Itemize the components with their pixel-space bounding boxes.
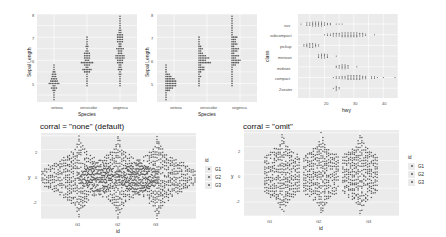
x-tick: G2 [115, 222, 120, 227]
point-icon [205, 182, 212, 189]
y-tick: -2 [236, 199, 240, 204]
x-tick: versicolor [80, 105, 97, 110]
plot-panel [244, 130, 399, 216]
y-tick: 8 [32, 13, 34, 18]
dots-layer [37, 14, 137, 102]
y-axis-title: Sepal Length [144, 48, 150, 77]
y-tick: 7 [32, 36, 34, 41]
dots-layer [41, 133, 196, 219]
legend: id G1 G2 G3 [408, 155, 424, 186]
plot-panel [37, 14, 137, 102]
legend-item: G1 [408, 162, 424, 170]
legend-item: G3 [408, 178, 424, 186]
x-axis-title: Species [198, 111, 216, 117]
x-tick: 20 [324, 101, 328, 106]
x-tick: setosa [170, 105, 182, 110]
dots-layer [157, 14, 257, 102]
y-tick: 0 [35, 175, 37, 180]
legend-item: G3 [205, 181, 221, 189]
y-tick: midsize [277, 66, 291, 71]
y-tick: 2 [238, 149, 240, 154]
y-tick: 2 [35, 150, 37, 155]
x-axis-title: hwy [342, 107, 351, 113]
y-tick: pickup [280, 44, 292, 49]
y-tick: 6 [32, 59, 34, 64]
y-tick: 8 [151, 13, 153, 18]
y-tick: subcompact [270, 33, 292, 38]
x-tick: G2 [316, 219, 321, 224]
x-axis-title: id [319, 225, 323, 231]
legend-title: id [205, 158, 221, 163]
x-tick: G3 [153, 222, 158, 227]
x-tick: 40 [382, 101, 386, 106]
legend-title: id [408, 155, 424, 160]
legend-item: G2 [408, 170, 424, 178]
y-axis-title: Sepal Length [26, 48, 32, 77]
x-tick: G3 [366, 219, 371, 224]
plot-title: corral = "none" (default) [40, 122, 124, 131]
y-axis-title: y [231, 173, 234, 179]
y-tick: 6 [151, 59, 153, 64]
y-tick: 5 [151, 82, 153, 87]
y-tick: -2 [33, 200, 37, 205]
x-tick: virginica [232, 105, 247, 110]
y-tick: 5 [32, 82, 34, 87]
legend: id G1 G2 G3 [205, 158, 221, 189]
legend-item: G2 [205, 173, 221, 181]
point-icon [205, 174, 212, 181]
x-tick: 30 [353, 101, 357, 106]
dots-layer [244, 130, 399, 216]
legend-item: G1 [205, 165, 221, 173]
y-tick: 7 [151, 36, 153, 41]
y-axis-title: y [28, 174, 31, 180]
y-tick: suv [284, 23, 290, 28]
dots-layer [298, 14, 398, 98]
x-axis-title: id [116, 228, 120, 234]
x-tick: G1 [267, 219, 272, 224]
plot-panel [157, 14, 257, 102]
plot-panel [298, 14, 398, 98]
y-tick: minivan [278, 55, 292, 60]
point-icon [408, 179, 415, 186]
y-tick: 0 [238, 174, 240, 179]
x-axis-title: Species [78, 111, 96, 117]
x-tick: virginica [113, 105, 128, 110]
plot-panel [41, 133, 196, 219]
point-icon [408, 163, 415, 170]
point-icon [205, 166, 212, 173]
y-axis-title: class [264, 51, 270, 62]
x-tick: versicolor [200, 105, 217, 110]
y-tick: 2seater [279, 87, 292, 92]
y-tick: compact [275, 76, 290, 81]
x-tick: G1 [75, 222, 80, 227]
x-tick: setosa [51, 105, 63, 110]
point-icon [408, 171, 415, 178]
